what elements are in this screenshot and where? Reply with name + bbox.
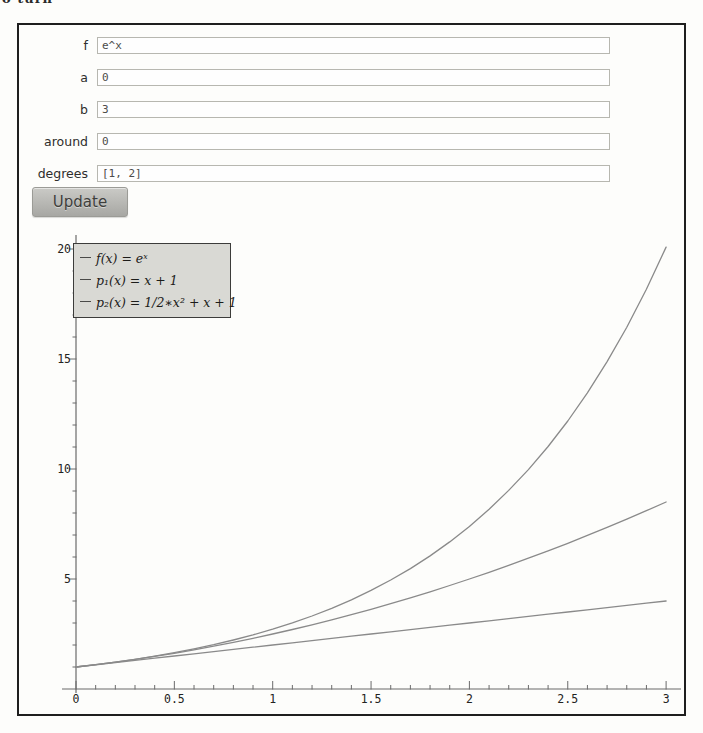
legend-label-f: f(x) = eˣ — [96, 251, 148, 266]
x-tick-label: 1.5 — [361, 692, 382, 706]
legend-label-p2: p₂(x) = 1/2∗x² + x + 1 — [96, 295, 237, 310]
x-tick-label: 2 — [466, 692, 473, 706]
around-input[interactable] — [97, 133, 610, 150]
form-row-around: around — [19, 133, 684, 165]
x-ticks — [76, 681, 666, 690]
form-row-b: b — [19, 101, 684, 133]
degrees-input[interactable] — [97, 165, 610, 182]
interact-frame: f a b around degrees Update 00.511.522.5… — [17, 23, 686, 716]
form-row-f: f — [19, 37, 684, 69]
y-tick-label: 15 — [57, 352, 71, 366]
x-tick-label: 0.5 — [164, 692, 185, 706]
legend-line-sample — [80, 279, 91, 280]
legend-line-sample — [80, 301, 91, 302]
legend-entry-p1: p₁(x) = x + 1 — [80, 269, 224, 291]
plot-legend: f(x) = eˣ p₁(x) = x + 1 p₂(x) = 1/2∗x² +… — [73, 243, 231, 318]
f-input[interactable] — [97, 37, 610, 54]
a-input[interactable] — [97, 69, 610, 86]
update-button[interactable]: Update — [32, 187, 128, 217]
legend-entry-f: f(x) = eˣ — [80, 247, 224, 269]
x-tick-label: 0 — [73, 692, 80, 706]
y-tick-label: 5 — [64, 572, 71, 586]
interact-form: f a b around degrees — [19, 37, 684, 197]
x-tick-label: 3 — [663, 692, 670, 706]
field-label-f: f — [19, 37, 88, 54]
b-input[interactable] — [97, 101, 610, 118]
y-tick-label: 20 — [57, 242, 71, 256]
field-label-around: around — [19, 133, 88, 150]
field-label-b: b — [19, 101, 88, 118]
x-tick-label: 2.5 — [557, 692, 578, 706]
page-text-fragment: o turn — [2, 0, 62, 7]
form-row-a: a — [19, 69, 684, 101]
page: o turn f a b around degrees — [0, 0, 703, 733]
x-tick-label: 1 — [269, 692, 276, 706]
field-label-a: a — [19, 69, 88, 86]
curve-p1 — [76, 601, 666, 667]
curve-p2 — [76, 502, 666, 667]
legend-entry-p2: p₂(x) = 1/2∗x² + x + 1 — [80, 291, 224, 313]
field-label-degrees: degrees — [19, 165, 88, 182]
legend-line-sample — [80, 257, 91, 258]
legend-label-p1: p₁(x) = x + 1 — [96, 273, 178, 288]
y-tick-label: 10 — [57, 462, 71, 476]
